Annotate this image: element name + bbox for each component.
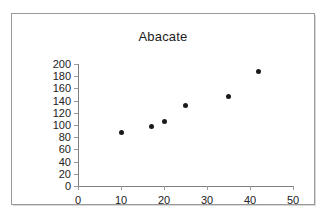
y-axis-tick-label: 120 <box>53 107 71 119</box>
x-axis-tick <box>293 186 294 190</box>
data-point <box>119 130 124 135</box>
y-axis-tick <box>74 101 78 102</box>
data-point <box>162 119 167 124</box>
data-point <box>149 124 154 129</box>
data-point <box>226 94 231 99</box>
y-axis-tick-label: 60 <box>59 143 71 155</box>
y-axis-tick-label: 100 <box>53 119 71 131</box>
y-axis-tick-label: 160 <box>53 82 71 94</box>
y-axis-tick <box>74 137 78 138</box>
y-axis-tick <box>74 125 78 126</box>
y-axis-tick <box>74 76 78 77</box>
y-axis-tick <box>74 113 78 114</box>
x-axis-tick-label: 30 <box>201 194 213 206</box>
y-axis-tick <box>74 88 78 89</box>
x-axis-tick <box>250 186 251 190</box>
y-axis-tick <box>74 162 78 163</box>
y-axis-tick-label: 0 <box>65 180 71 192</box>
x-axis-line <box>78 186 294 187</box>
x-axis-tick-label: 20 <box>158 194 170 206</box>
y-axis-tick-label: 80 <box>59 131 71 143</box>
x-axis-tick <box>164 186 165 190</box>
chart-title: Abacate <box>12 29 314 44</box>
y-axis-tick <box>74 64 78 65</box>
chart-frame: Abacate 020406080100120140160180200 0102… <box>11 13 315 205</box>
x-axis-tick <box>121 186 122 190</box>
x-axis-tick <box>207 186 208 190</box>
y-axis-tick <box>74 174 78 175</box>
y-axis-tick <box>74 149 78 150</box>
y-axis-tick-label: 20 <box>59 168 71 180</box>
data-point <box>256 69 261 74</box>
plot-area: 020406080100120140160180200 01020304050 <box>78 64 293 186</box>
x-axis-tick <box>78 186 79 190</box>
y-axis-tick-label: 140 <box>53 95 71 107</box>
y-axis-tick-label: 200 <box>53 58 71 70</box>
y-axis-tick-label: 180 <box>53 70 71 82</box>
x-axis-tick-label: 50 <box>287 194 299 206</box>
x-axis-tick-label: 40 <box>244 194 256 206</box>
y-axis-tick-label: 40 <box>59 156 71 168</box>
data-point <box>183 103 188 108</box>
x-axis-tick-label: 10 <box>115 194 127 206</box>
x-axis-tick-label: 0 <box>75 194 81 206</box>
